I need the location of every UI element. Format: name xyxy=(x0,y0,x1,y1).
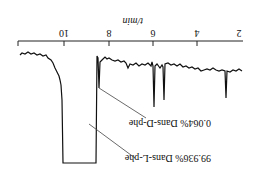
tick-label-10: 10 xyxy=(59,28,69,39)
x-ticks xyxy=(18,41,197,46)
x-axis-title: t/min xyxy=(122,16,143,27)
chromatogram-trace xyxy=(20,52,242,163)
tick-label-2: 2 xyxy=(237,28,242,39)
l-peak-label: 99.936% Dans-L-phe xyxy=(125,153,211,164)
tick-label-8: 8 xyxy=(107,28,112,39)
chromatogram-figure: 10 8 6 4 2 t/min 0.064% Dans-D-phe 99.93… xyxy=(0,0,259,187)
tick-label-6: 6 xyxy=(151,28,156,39)
d-peak-leader-line xyxy=(99,88,146,118)
tick-label-4: 4 xyxy=(195,28,200,39)
d-peak-label: 0.064% Dans-D-phe xyxy=(129,118,211,129)
